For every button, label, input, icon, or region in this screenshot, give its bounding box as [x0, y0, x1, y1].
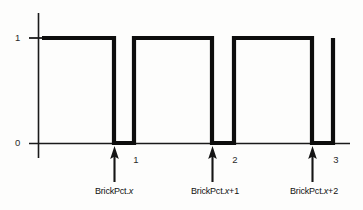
marker-caption-3: BrickPct.x+2 [290, 186, 338, 196]
marker-caption-3-suffix: +2 [328, 186, 338, 196]
axes-group [29, 13, 350, 158]
y-tick-label-one: 1 [15, 32, 20, 43]
marker-arrow-1 [110, 146, 119, 182]
marker-arrow-3 [308, 146, 317, 182]
x-tick-label-one: 1 [133, 154, 138, 165]
marker-caption-1: BrickPct.x [95, 186, 134, 196]
square-wave-trace [42, 38, 333, 143]
square-wave-timing-diagram: 1 0 1 2 3 BrickPct.x BrickPct.x+1 BrickP… [0, 0, 363, 210]
marker-caption-2-suffix: +1 [229, 186, 239, 196]
x-tick-label-three: 3 [333, 154, 338, 165]
figure-container: 1 0 1 2 3 BrickPct.x BrickPct.x+1 BrickP… [0, 0, 363, 210]
marker-caption-3-prefix: BrickPct. [290, 186, 324, 196]
marker-caption-2: BrickPct.x+1 [191, 186, 239, 196]
marker-caption-2-prefix: BrickPct. [191, 186, 225, 196]
marker-caption-1-var: x [128, 186, 134, 196]
y-tick-label-zero: 0 [15, 137, 20, 148]
waveform-group [42, 38, 333, 143]
marker-arrow-2 [208, 146, 217, 182]
marker-caption-1-prefix: BrickPct. [95, 186, 129, 196]
x-tick-label-two: 2 [232, 154, 237, 165]
